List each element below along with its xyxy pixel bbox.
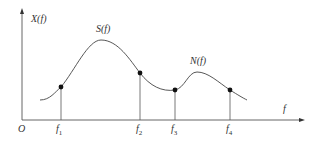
point-f3	[173, 88, 178, 93]
spectrum-curve	[40, 40, 247, 100]
tick-label-f1: f1	[56, 124, 62, 137]
tick-label-f3: f3	[171, 124, 177, 137]
tick-label-f2: f2	[136, 124, 142, 137]
x-axis-arrow-icon	[299, 118, 305, 122]
point-f2	[138, 71, 143, 76]
point-f4	[228, 88, 233, 93]
noise-curve-label: N(f)	[190, 56, 206, 66]
tick-sub: 3	[174, 129, 178, 137]
spectrum-diagram	[0, 0, 321, 144]
tick-sub: 4	[229, 129, 233, 137]
x-axis-label: f	[283, 104, 286, 114]
point-f1	[59, 85, 64, 90]
y-axis-arrow-icon	[20, 8, 24, 14]
signal-curve-label: S(f)	[96, 24, 110, 34]
y-axis-label: X(f)	[31, 14, 47, 24]
tick-label-f4: f4	[226, 124, 232, 137]
tick-sub: 2	[139, 129, 143, 137]
origin-label: O	[18, 124, 25, 134]
tick-sub: 1	[59, 129, 63, 137]
